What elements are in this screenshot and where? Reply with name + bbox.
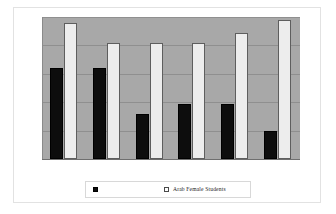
bar [50, 68, 63, 159]
x-axis-line [42, 159, 300, 160]
bar-group [86, 17, 129, 159]
legend-label-series-2: Arab Female Students [173, 186, 226, 193]
bar-group [43, 17, 86, 159]
bar-group [214, 17, 257, 159]
filled-square-marker-icon [93, 187, 98, 192]
bar [264, 131, 277, 159]
legend-entry-series-1[interactable] [93, 182, 102, 197]
bar-group [257, 17, 300, 159]
bar [192, 43, 205, 159]
bar [235, 33, 248, 159]
chart-legend: Arab Female Students [85, 181, 251, 198]
bar [178, 104, 191, 159]
y-axis-line [42, 17, 43, 160]
bar [136, 114, 149, 159]
bar-group [172, 17, 215, 159]
bar [150, 43, 163, 159]
bar-group [129, 17, 172, 159]
bar [221, 104, 234, 159]
plot-area [42, 17, 300, 159]
bar [64, 23, 77, 159]
open-square-marker-icon [164, 187, 169, 192]
legend-entry-series-2[interactable]: Arab Female Students [164, 182, 226, 197]
bar [93, 68, 106, 159]
bar [278, 20, 291, 159]
chart-figure: Arab Female Students [0, 0, 336, 214]
bar [107, 43, 120, 159]
